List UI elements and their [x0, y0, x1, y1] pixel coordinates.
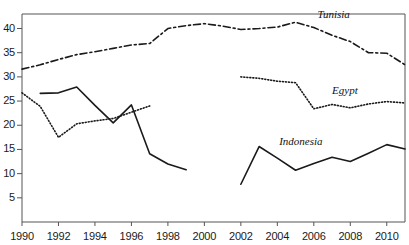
- y-axis-tick-label: 20: [0, 118, 15, 130]
- x-axis-tick-label: 1998: [148, 230, 188, 242]
- series-line-egypt: [22, 93, 150, 138]
- x-axis-tick-label: 2004: [257, 230, 297, 242]
- plot-frame: [22, 14, 405, 222]
- x-axis-tick-label: 2010: [367, 230, 407, 242]
- y-axis-tick-label: 5: [0, 191, 15, 203]
- x-axis-tick-label: 1996: [111, 230, 151, 242]
- series-label-egypt: Egypt: [332, 84, 358, 96]
- x-axis-tick-label: 2002: [221, 230, 261, 242]
- x-axis-tick-label: 1994: [75, 230, 115, 242]
- x-axis-tick-label: 1992: [38, 230, 78, 242]
- y-axis-tick-label: 15: [0, 142, 15, 154]
- series-line-indonesia: [241, 145, 405, 185]
- x-axis-tick-label: 2008: [330, 230, 370, 242]
- y-axis-tick-label: 40: [0, 22, 15, 34]
- series-label-tunisia: Tunisia: [317, 8, 349, 20]
- line-chart: 510152025303540 199019921994199619982000…: [0, 0, 409, 245]
- series-label-indonesia: Indonesia: [279, 135, 322, 147]
- x-axis-tick-label: 1990: [2, 230, 42, 242]
- y-axis-tick-label: 30: [0, 70, 15, 82]
- y-axis-tick-label: 10: [0, 167, 15, 179]
- chart-plot-area: [0, 0, 409, 245]
- series-line-tunisia: [22, 22, 405, 69]
- y-axis-tick-label: 25: [0, 94, 15, 106]
- series-line-indonesia: [40, 87, 186, 170]
- x-axis-tick-label: 2006: [294, 230, 334, 242]
- series-line-egypt: [241, 77, 405, 109]
- y-axis-tick-label: 35: [0, 46, 15, 58]
- x-axis-tick-label: 2000: [184, 230, 224, 242]
